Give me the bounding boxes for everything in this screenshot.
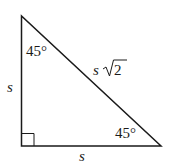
hypotenuse-radicand: 2	[114, 62, 122, 78]
bottom-right-angle-label: 45°	[115, 125, 136, 141]
right-angle-marker	[22, 134, 35, 147]
left-side-label: s	[7, 79, 13, 95]
triangle-diagram: 45° 45° s s s 2	[0, 0, 171, 168]
top-angle-label: 45°	[26, 43, 47, 59]
hypotenuse-label: s 2	[93, 60, 127, 78]
bottom-side-label: s	[79, 148, 85, 164]
hypotenuse-variable: s	[93, 62, 99, 78]
triangle-shape	[22, 16, 162, 146]
